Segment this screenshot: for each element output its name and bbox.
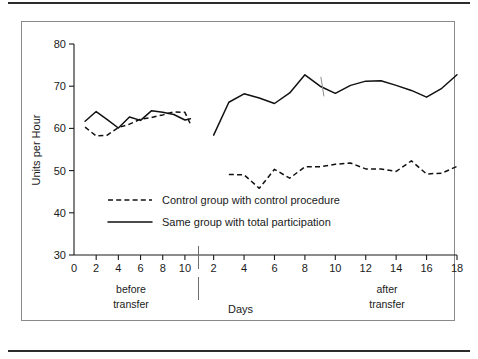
y-tick-label: 50: [54, 165, 66, 177]
line-chart: 304050607080024681024681012141618Units p…: [0, 0, 478, 359]
section-label-after-line1: after: [377, 283, 399, 295]
x-tick-label-after: 18: [451, 262, 463, 274]
section-label-before-line2: transfer: [113, 298, 149, 310]
x-tick-label-after: 12: [360, 262, 372, 274]
y-tick-label: 70: [54, 80, 66, 92]
series-layer: [85, 75, 457, 189]
y-tick-label: 60: [54, 122, 66, 134]
x-tick-label-after: 2: [211, 262, 217, 274]
y-tick-label: 40: [54, 207, 66, 219]
x-tick-label-after: 16: [420, 262, 432, 274]
series-line-control-group: [229, 161, 457, 188]
x-tick-label-after: 14: [390, 262, 402, 274]
section-label-before-line1: before: [116, 283, 146, 295]
legend-label-1: Same group with total participation: [162, 216, 331, 228]
y-tick-label: 30: [54, 249, 66, 261]
series-line-participation-group: [214, 75, 457, 135]
x-tick-label-before: 4: [115, 262, 121, 274]
figure-root: 304050607080024681024681012141618Units p…: [0, 0, 478, 359]
legend-layer: Control group with control procedureSame…: [108, 194, 340, 228]
x-tick-label-before: 0: [71, 262, 77, 274]
x-tick-label-before: 8: [160, 262, 166, 274]
x-tick-label-after: 8: [302, 262, 308, 274]
x-tick-label-before: 2: [93, 262, 99, 274]
x-tick-label-before: 6: [137, 262, 143, 274]
x-tick-label-before: 10: [179, 262, 191, 274]
x-tick-label-after: 4: [241, 262, 247, 274]
y-axis-title: Units per Hour: [30, 114, 42, 185]
section-label-after-line2: transfer: [369, 298, 405, 310]
x-tick-label-after: 10: [329, 262, 341, 274]
series-line-participation-group: [85, 111, 190, 128]
legend-label-0: Control group with control procedure: [162, 194, 340, 206]
x-axis-title: Days: [228, 303, 254, 315]
y-tick-label: 80: [54, 38, 66, 50]
x-tick-label-after: 6: [271, 262, 277, 274]
